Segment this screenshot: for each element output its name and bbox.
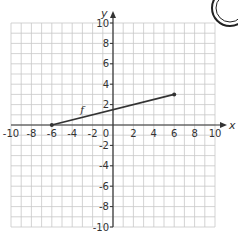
x-tick-label: -6 (47, 128, 57, 139)
logo-icon (208, 0, 238, 30)
y-tick-label: -4 (99, 160, 109, 171)
x-tick-label: 8 (191, 128, 197, 139)
x-tick-label: 6 (171, 128, 177, 139)
y-tick-label: 2 (103, 99, 109, 110)
function-label-f: f (79, 104, 86, 115)
x-tick-label: -4 (67, 128, 77, 139)
x-tick-label: 2 (130, 128, 136, 139)
x-axis-label: x (228, 119, 236, 132)
y-tick-label: -2 (99, 140, 109, 151)
x-tick-label: -10 (3, 128, 19, 139)
x-tick-label: 0 (103, 128, 109, 139)
y-tick-label: 6 (103, 58, 109, 69)
y-tick-label: -6 (99, 181, 109, 192)
y-tick-label: -10 (93, 222, 109, 233)
y-axis-label: y (100, 7, 108, 20)
y-tick-label: 8 (103, 38, 109, 49)
coordinate-plane: -10-8-6-4-20246810108642-2-4-6-8-10 f x … (0, 0, 238, 234)
y-tick-label: -8 (99, 201, 109, 212)
y-tick-label: 4 (103, 79, 109, 90)
x-tick-label: 4 (151, 128, 157, 139)
x-tick-label: -8 (26, 128, 36, 139)
x-tick-label: -2 (88, 128, 98, 139)
x-tick-label: 10 (209, 128, 222, 139)
